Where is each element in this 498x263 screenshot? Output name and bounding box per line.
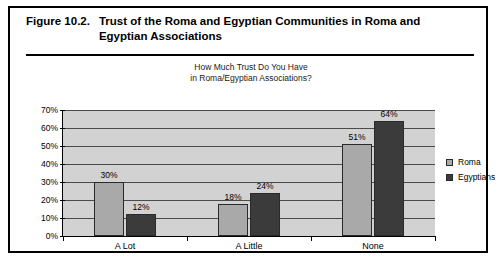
bar-egyptians-none bbox=[374, 121, 404, 236]
y-axis-tick-label: 70% bbox=[14, 106, 58, 115]
chart: How Much Trust Do You Have in Roma/Egypt… bbox=[10, 56, 486, 253]
x-axis-category-label: A Little bbox=[189, 241, 309, 251]
chart-title-line-2: in Roma/Egyptian Associations? bbox=[126, 73, 376, 84]
figure-number: Figure 10.2. bbox=[26, 14, 90, 29]
y-axis-tick bbox=[60, 128, 65, 129]
x-axis-category-label: None bbox=[313, 241, 433, 251]
figure-caption: Figure 10.2. Trust of the Roma and Egypt… bbox=[26, 14, 472, 44]
y-axis-tick-label: 10% bbox=[14, 214, 58, 223]
y-axis-tick bbox=[60, 164, 65, 165]
y-axis-tick bbox=[60, 146, 65, 147]
figure-caption-text: Trust of the Roma and Egyptian Communiti… bbox=[99, 14, 472, 44]
chart-title-line-1: How Much Trust Do You Have bbox=[126, 62, 376, 73]
y-axis-tick bbox=[60, 182, 65, 183]
bar-value-label: 64% bbox=[369, 110, 409, 119]
x-axis-tick bbox=[63, 237, 64, 241]
legend-item-roma: Roma bbox=[446, 158, 495, 167]
bar-value-label: 18% bbox=[213, 193, 253, 202]
legend-swatch-icon-egyptians bbox=[446, 174, 453, 181]
bar-roma-a-little bbox=[218, 204, 248, 236]
y-axis-tick bbox=[60, 218, 65, 219]
bar-egyptians-a-little bbox=[250, 193, 280, 236]
y-axis-tick-label: 30% bbox=[14, 178, 58, 187]
y-axis-tick-label: 60% bbox=[14, 124, 58, 133]
y-axis-tick-label: 0% bbox=[14, 232, 58, 241]
x-axis-tick bbox=[435, 237, 436, 241]
bar-value-label: 30% bbox=[89, 171, 129, 180]
y-axis-tick bbox=[60, 110, 65, 111]
bar-roma-a-lot bbox=[94, 182, 124, 236]
y-axis-tick bbox=[60, 200, 65, 201]
x-axis-category-label: A Lot bbox=[65, 241, 185, 251]
bar-value-label: 24% bbox=[245, 182, 285, 191]
legend-label-roma: Roma bbox=[458, 158, 481, 167]
x-axis-tick bbox=[187, 237, 188, 241]
y-axis-tick-label: 50% bbox=[14, 142, 58, 151]
chart-title: How Much Trust Do You Have in Roma/Egypt… bbox=[126, 62, 376, 84]
bar-value-label: 51% bbox=[337, 133, 377, 142]
chart-legend: Roma Egyptians bbox=[446, 158, 495, 188]
y-axis-labels: 70%60%50%40%30%20%10%0% bbox=[12, 56, 58, 253]
legend-swatch-icon-roma bbox=[446, 159, 453, 166]
x-axis-tick bbox=[311, 237, 312, 241]
bar-value-label: 12% bbox=[121, 203, 161, 212]
figure-frame: Figure 10.2. Trust of the Roma and Egypt… bbox=[8, 6, 488, 253]
legend-item-egyptians: Egyptians bbox=[446, 173, 495, 182]
bar-roma-none bbox=[342, 144, 372, 236]
bar-egyptians-a-lot bbox=[126, 214, 156, 236]
y-axis-tick-label: 20% bbox=[14, 196, 58, 205]
x-axis-line bbox=[62, 236, 436, 237]
y-axis-tick-label: 40% bbox=[14, 160, 58, 169]
legend-label-egyptians: Egyptians bbox=[458, 173, 495, 182]
